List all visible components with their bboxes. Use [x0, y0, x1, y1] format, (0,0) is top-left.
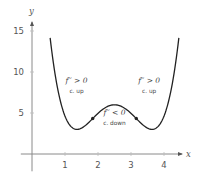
concavity-chart: x y 1234 51015 f′′ > 0 c. up f′′ < 0 c. … [0, 0, 205, 179]
annotation-middle-sub: c. down [103, 120, 126, 126]
x-axis-label: x [186, 149, 191, 159]
inflection-point [91, 117, 94, 120]
annotation-right-main: f′′ > 0 [137, 76, 160, 85]
x-tick-label: 3 [128, 160, 133, 170]
y-tick-label: 10 [13, 67, 24, 77]
annotation-left-sub: c. up [69, 88, 84, 95]
y-ticks: 51015 [13, 26, 34, 118]
annotation-middle-main: f′′ < 0 [102, 108, 125, 117]
x-ticks: 1234 [62, 152, 166, 170]
y-tick-label: 15 [13, 26, 24, 36]
annotation-right-sub: c. up [142, 88, 157, 95]
y-axis-label: y [28, 6, 34, 16]
axes: x y [21, 6, 191, 171]
y-tick-label: 5 [19, 108, 24, 118]
x-tick-label: 1 [62, 160, 67, 170]
inflection-point [135, 117, 138, 120]
x-tick-label: 2 [95, 160, 100, 170]
x-tick-label: 4 [161, 160, 166, 170]
concavity-annotations: f′′ > 0 c. up f′′ < 0 c. down f′′ > 0 c.… [65, 76, 161, 127]
annotation-left-main: f′′ > 0 [65, 76, 88, 85]
